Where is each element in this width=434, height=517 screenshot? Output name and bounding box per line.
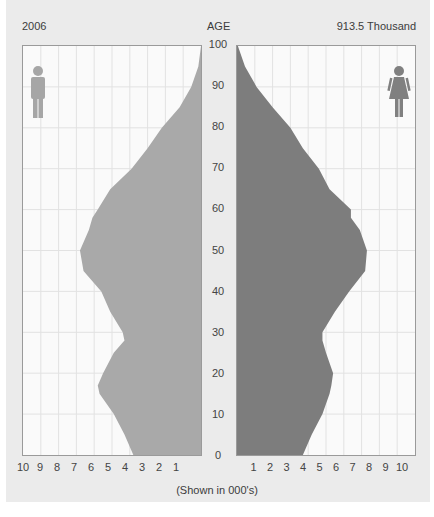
female-x-tick-label: 2: [262, 461, 278, 473]
age-tick-label: 70: [203, 161, 233, 173]
male-x-tick-label: 7: [66, 461, 82, 473]
male-pyramid-plot: [23, 46, 201, 455]
age-tick-label: 20: [203, 367, 233, 379]
year-label: 2006: [22, 20, 46, 32]
female-x-tick-label: 1: [246, 461, 262, 473]
male-x-tick-label: 6: [83, 461, 99, 473]
female-x-tick-label: 7: [345, 461, 361, 473]
male-x-tick-label: 9: [32, 461, 48, 473]
male-x-tick-label: 8: [49, 461, 65, 473]
female-x-tick-label: 6: [328, 461, 344, 473]
male-x-tick-label: 5: [100, 461, 116, 473]
male-x-tick-label: 3: [134, 461, 150, 473]
age-tick-label: 10: [203, 408, 233, 420]
male-x-tick-label: 1: [168, 461, 184, 473]
female-x-tick-label: 8: [361, 461, 377, 473]
age-tick-label: 100: [203, 38, 233, 50]
female-x-tick-label: 5: [312, 461, 328, 473]
age-tick-label: 30: [203, 326, 233, 338]
female-x-tick-label: 10: [394, 461, 410, 473]
x-axis-caption: (Shown in 000's): [0, 484, 434, 496]
female-population-area: [237, 46, 367, 455]
male-population-area: [80, 46, 201, 455]
male-figure-icon: [31, 66, 45, 118]
age-tick-label: 90: [203, 79, 233, 91]
male-x-tick-label: 4: [117, 461, 133, 473]
age-axis-title: AGE: [207, 20, 229, 32]
male-panel: [22, 45, 202, 456]
male-x-tick-label: 2: [151, 461, 167, 473]
age-tick-label: 0: [203, 449, 233, 461]
age-tick-label: 60: [203, 202, 233, 214]
female-panel: [236, 45, 416, 456]
female-x-tick-label: 4: [295, 461, 311, 473]
female-pyramid-plot: [237, 46, 415, 455]
female-x-tick-label: 3: [279, 461, 295, 473]
female-x-tick-label: 9: [378, 461, 394, 473]
age-tick-label: 50: [203, 244, 233, 256]
age-tick-label: 40: [203, 285, 233, 297]
total-population-label: 913.5 Thousand: [337, 20, 416, 32]
female-figure-icon: [387, 66, 410, 117]
male-x-tick-label: 10: [15, 461, 31, 473]
age-tick-label: 80: [203, 120, 233, 132]
